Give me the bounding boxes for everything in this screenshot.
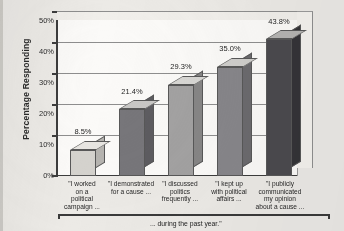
gridline-50	[57, 11, 297, 12]
x-label-5-line-4: about a cause ...	[247, 203, 313, 211]
y-tick-label-30: 30%	[28, 78, 54, 87]
y-tick-label-10: 10%	[28, 140, 54, 149]
y-tick-30	[52, 73, 57, 75]
bar-5-side	[292, 25, 301, 167]
bar-1-face	[70, 150, 96, 177]
bar-4	[217, 67, 243, 176]
bracket-cap-right	[328, 214, 330, 219]
bar-3	[168, 85, 194, 176]
bar-4-face	[217, 67, 243, 176]
bar-2-value-label: 21.4%	[110, 87, 154, 96]
x-label-5-line-3: my opinion	[247, 195, 313, 203]
plot-area: 8.5% 21.4% 29.3% 35.0% 43.8%	[57, 20, 312, 176]
bar-1	[70, 150, 96, 177]
bar-5	[266, 39, 292, 176]
page-edge	[0, 0, 3, 231]
y-tick-20	[52, 104, 57, 106]
bar-3-face	[168, 85, 194, 176]
x-label-5: "I publicly communicated my opinion abou…	[247, 180, 313, 210]
bar-chart: Percentage Responding 50% 40% 30% 20% 10…	[0, 0, 344, 231]
bar-5-face	[266, 39, 292, 176]
bracket-cap-left	[58, 214, 60, 219]
y-axis-line	[56, 20, 58, 177]
x-label-5-line-1: "I publicly	[247, 180, 313, 188]
y-tick-label-50: 50%	[28, 16, 54, 25]
y-tick-10	[52, 135, 57, 137]
gridline-40	[57, 42, 297, 43]
bar-3-side	[194, 70, 203, 167]
bar-3-value-label: 29.3%	[159, 62, 203, 71]
y-tick-40	[52, 42, 57, 44]
bar-1-value-label: 8.5%	[61, 127, 105, 136]
bar-2-face	[119, 109, 145, 176]
y-tick-label-40: 40%	[28, 47, 54, 56]
x-axis-caption: ... during the past year."	[150, 220, 340, 227]
gridline-30	[57, 73, 297, 74]
x-axis-labels: "I worked on a political campaign ... "I…	[57, 180, 344, 216]
bracket-line	[58, 214, 330, 216]
bar-2	[119, 109, 145, 176]
y-tick-label-0: 0%	[28, 171, 54, 180]
bar-4-value-label: 35.0%	[208, 44, 252, 53]
x-label-5-line-2: communicated	[247, 188, 313, 196]
x-label-1-line-3: political	[53, 195, 111, 203]
y-tick-50	[52, 11, 57, 13]
bar-1-side	[96, 135, 105, 167]
bar-5-value-label: 43.8%	[257, 17, 301, 26]
y-tick-0	[52, 175, 57, 177]
y-tick-label-20: 20%	[28, 109, 54, 118]
bar-4-side	[243, 52, 252, 167]
x-label-1-line-4: campaign ...	[53, 203, 111, 211]
